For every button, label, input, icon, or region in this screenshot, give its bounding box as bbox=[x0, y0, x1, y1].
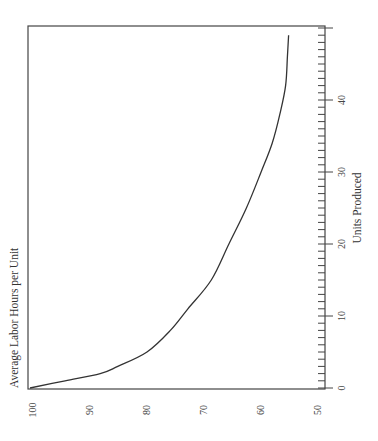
x-tick-label: 30 bbox=[336, 167, 347, 177]
x-tick-label: 0 bbox=[336, 386, 347, 391]
x-tick-label: 40 bbox=[336, 95, 347, 105]
y-axis-title: Average Labor Hours per Unit bbox=[8, 247, 21, 388]
y-tick-label: 80 bbox=[141, 405, 152, 415]
x-tick-label: 10 bbox=[336, 311, 347, 321]
y-tick-label: 100 bbox=[27, 403, 38, 418]
y-tick-label: 60 bbox=[255, 405, 266, 415]
x-tick-label: 20 bbox=[336, 239, 347, 249]
x-axis-tick-labels: 010203040 bbox=[336, 95, 347, 391]
y-tick-label: 90 bbox=[84, 405, 95, 415]
y-axis-tick-labels: 1009080706050 bbox=[27, 403, 323, 418]
plot-frame bbox=[28, 26, 325, 389]
y-tick-label: 70 bbox=[198, 405, 209, 415]
y-tick-label: 50 bbox=[312, 405, 323, 415]
x-axis-title: Units Produced bbox=[351, 172, 363, 243]
learning-curve-chart: 010203040 1009080706050 Average Labor Ho… bbox=[0, 0, 378, 441]
data-curve bbox=[30, 35, 289, 388]
